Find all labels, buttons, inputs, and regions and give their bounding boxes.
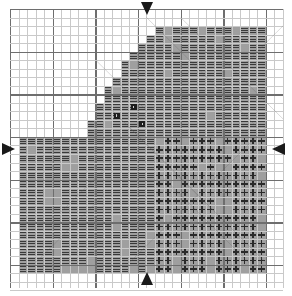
grid-line-horizontal xyxy=(10,86,283,87)
grid-line-horizontal xyxy=(10,69,283,70)
grid-line-horizontal xyxy=(10,18,283,19)
grid-line-horizontal xyxy=(10,197,283,198)
grid-line-horizontal xyxy=(10,231,283,232)
grid-line-horizontal xyxy=(10,214,283,215)
grid-line-horizontal xyxy=(10,171,283,172)
grid-line-horizontal xyxy=(10,26,283,27)
grid-line-horizontal xyxy=(10,120,283,121)
grid-line-horizontal xyxy=(10,290,283,291)
pattern-grid[interactable] xyxy=(10,9,283,288)
grid-line-horizontal xyxy=(10,43,283,44)
grid-line-major-horizontal xyxy=(10,265,283,266)
grid-line-horizontal xyxy=(10,239,283,240)
grid-lines-layer xyxy=(10,9,283,288)
grid-line-horizontal xyxy=(10,248,283,249)
grid-line-horizontal xyxy=(10,111,283,112)
grid-line-horizontal xyxy=(10,145,283,146)
cross-stitch-chart: Cross-stitch pattern chart xyxy=(0,0,292,296)
grid-line-major-horizontal xyxy=(10,180,283,181)
grid-line-major-horizontal xyxy=(10,222,283,223)
grid-line-horizontal xyxy=(10,256,283,257)
grid-line-horizontal xyxy=(10,103,283,104)
grid-line-horizontal xyxy=(10,77,283,78)
grid-line-horizontal xyxy=(10,154,283,155)
grid-line-horizontal xyxy=(10,163,283,164)
grid-line-horizontal xyxy=(10,205,283,206)
grid-line-horizontal xyxy=(10,35,283,36)
grid-line-horizontal xyxy=(10,60,283,61)
grid-line-major-horizontal xyxy=(10,52,283,53)
grid-line-horizontal xyxy=(10,188,283,189)
grid-line-horizontal xyxy=(10,128,283,129)
grid-line-major-horizontal xyxy=(10,137,283,138)
grid-line-major-horizontal xyxy=(10,94,283,95)
